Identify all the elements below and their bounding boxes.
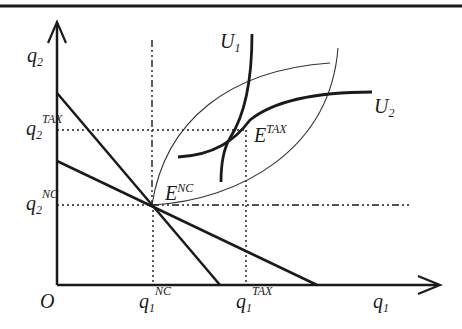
x-axis-label: q1 <box>373 290 389 315</box>
u2-label: U2 <box>374 95 394 120</box>
axes <box>48 22 440 294</box>
indifference-curves <box>178 34 372 182</box>
q1-tax-label: q1TAX <box>236 284 273 315</box>
u1-curve <box>221 34 252 182</box>
y-axis-label: q2 <box>27 44 43 69</box>
steep-line <box>57 93 220 285</box>
e-tax-label: ETAX <box>253 122 287 146</box>
guide-lines <box>57 40 412 285</box>
q1-nc-label: q1NC <box>139 284 172 315</box>
q2-nc-label: q2NC <box>26 187 59 217</box>
origin-label: O <box>40 290 54 312</box>
equilibrium-diagram: q2 q1 O q1NC q1TAX q2TAX q2NC ENC ETAX U… <box>0 0 462 329</box>
flat-line <box>57 161 317 285</box>
u1-label: U1 <box>220 30 240 55</box>
